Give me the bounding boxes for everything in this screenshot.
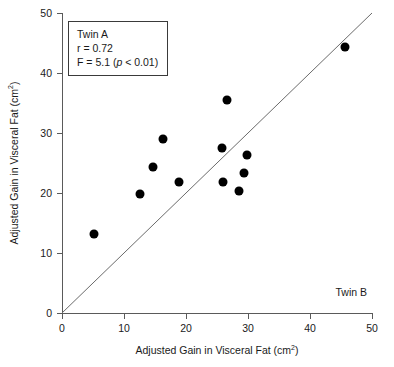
stats-f-suffix: < 0.01) (122, 56, 158, 68)
y-tick-label-30: 30 (40, 128, 52, 139)
x-tick-50 (372, 314, 373, 319)
y-tick-label-50: 50 (40, 8, 52, 19)
data-point (149, 163, 158, 172)
x-axis-title-text: Adjusted Gain in Visceral Fat (cm (135, 344, 291, 356)
data-point (159, 135, 168, 144)
y-axis-title: Adjusted Gain in Visceral Fat (cm2) (9, 81, 20, 244)
identity-line (0, 0, 394, 367)
x-tick-20 (186, 314, 187, 319)
data-point (90, 229, 99, 238)
x-tick-10 (124, 314, 125, 319)
y-axis-title-text: Adjusted Gain in Visceral Fat (cm (8, 89, 20, 245)
stats-twin-a-label: Twin A (77, 27, 158, 41)
data-point (240, 169, 249, 178)
y-tick-0 (57, 313, 62, 314)
data-point (217, 144, 226, 153)
y-tick-20 (57, 193, 62, 194)
y-tick-30 (57, 133, 62, 134)
x-tick-label-20: 20 (180, 323, 192, 334)
stats-annotation-box: Twin A r = 0.72 F = 5.1 (p < 0.01) (68, 21, 168, 76)
data-point (174, 178, 183, 187)
x-tick-label-40: 40 (304, 323, 316, 334)
y-axis-line (62, 13, 63, 314)
x-tick-label-50: 50 (366, 323, 378, 334)
y-tick-label-0: 0 (46, 308, 52, 319)
y-axis-title-tail: ) (8, 81, 20, 85)
data-point (242, 151, 251, 160)
twin-b-label: Twin B (335, 287, 367, 298)
y-tick-50 (57, 13, 62, 14)
scatter-plot-figure: 0102030405001020304050 Twin A r = 0.72 F… (0, 0, 394, 367)
data-point (219, 178, 228, 187)
y-axis-title-superscript: 2 (7, 85, 14, 89)
stats-f-value: F = 5.1 (p < 0.01) (77, 55, 158, 69)
x-axis-title: Adjusted Gain in Visceral Fat (cm2) (135, 345, 298, 356)
x-tick-30 (248, 314, 249, 319)
y-tick-label-40: 40 (40, 68, 52, 79)
y-tick-label-10: 10 (40, 248, 52, 259)
y-tick-40 (57, 73, 62, 74)
data-point (340, 43, 349, 52)
data-point (222, 96, 231, 105)
x-axis-line (62, 313, 373, 314)
x-tick-0 (62, 314, 63, 319)
x-tick-label-10: 10 (118, 323, 130, 334)
stats-f-prefix: F = 5.1 ( (77, 56, 116, 68)
x-tick-40 (310, 314, 311, 319)
y-tick-label-20: 20 (40, 188, 52, 199)
x-tick-label-0: 0 (59, 323, 65, 334)
stats-r-value: r = 0.72 (77, 41, 158, 55)
y-tick-10 (57, 253, 62, 254)
data-point (136, 190, 145, 199)
x-tick-label-30: 30 (242, 323, 254, 334)
x-axis-title-tail: ) (295, 344, 299, 356)
data-point (234, 186, 243, 195)
